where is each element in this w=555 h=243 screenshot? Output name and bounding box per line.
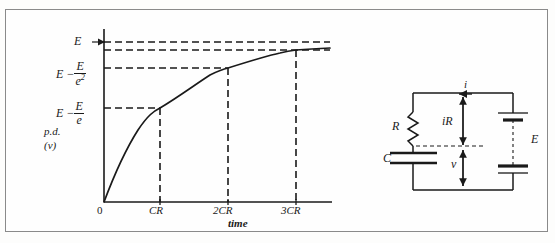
circuit-diagram [390, 93, 528, 190]
graph-drop-lines [160, 50, 296, 202]
circuit-annotation-capacitor-pd: v [451, 157, 456, 172]
y-tick-one-tau-numerator: E [74, 100, 83, 114]
x-axis-origin-label: 0 [97, 204, 103, 216]
y-tick-one-tau-denominator: e [74, 114, 83, 127]
y-tick-two-tau-prefix: E − [56, 67, 74, 81]
y-axis-title-line2: (v) [44, 138, 61, 152]
x-tick-label-2CR: 2CR [213, 204, 233, 216]
circuit-label-resistor: R [392, 119, 399, 134]
figure-capacitor-charging: E E −Ee2 E −Ee p.d. (v) 0 CR 2CR 3CR tim… [0, 0, 555, 243]
circuit-annotation-resistor-drop: iR [442, 114, 453, 129]
y-tick-two-tau-denominator: e2 [74, 74, 85, 88]
circuit-label-battery: E [531, 132, 538, 147]
charging-curve [104, 48, 330, 202]
resistor-symbol [408, 112, 418, 146]
y-axis-title: p.d. (v) [44, 124, 61, 152]
x-axis-title: time [228, 217, 248, 229]
y-tick-label-asymptote: E [74, 34, 81, 49]
circuit-annotation-current: i [464, 78, 467, 90]
x-tick-label-3CR: 3CR [281, 204, 301, 216]
graph-axes [104, 29, 332, 202]
y-tick-one-tau-prefix: E − [56, 106, 74, 120]
circuit-label-capacitor: C [383, 151, 391, 166]
y-tick-two-tau-numerator: E [74, 60, 85, 74]
y-tick-asymptote-text: E [74, 34, 81, 48]
x-tick-label-CR: CR [149, 204, 163, 216]
y-tick-label-one-tau: E −Ee [56, 100, 84, 126]
y-tick-label-two-tau: E −Ee2 [56, 60, 86, 87]
y-axis-title-line1: p.d. [44, 124, 61, 138]
